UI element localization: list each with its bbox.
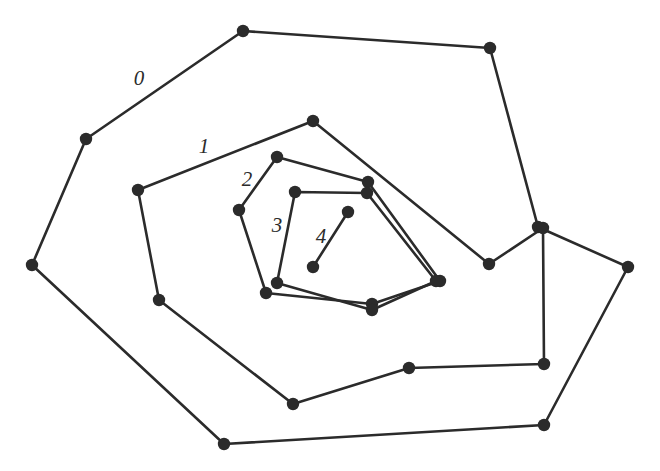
vertex-point	[366, 304, 378, 316]
vertex-point	[403, 362, 415, 374]
vertex-point	[80, 133, 92, 145]
layers-group	[26, 25, 634, 450]
vertex-point	[153, 294, 165, 306]
vertex-point	[430, 275, 442, 287]
vertex-point	[537, 222, 549, 234]
layer-labels-group: 01234	[134, 66, 327, 248]
layer-outline-0	[32, 31, 628, 444]
convex-layers-figure: 01234	[0, 0, 660, 471]
convex-layer-4	[307, 206, 354, 273]
vertex-point	[271, 151, 283, 163]
vertex-point	[132, 184, 144, 196]
layer-label-0: 0	[134, 66, 145, 90]
vertex-point	[361, 187, 373, 199]
layer-label-3: 3	[271, 213, 283, 237]
convex-layer-1	[132, 115, 550, 410]
vertex-point	[538, 419, 550, 431]
vertex-point	[260, 287, 272, 299]
convex-layers-canvas: 01234	[0, 0, 660, 471]
vertex-point	[233, 204, 245, 216]
vertex-point	[289, 186, 301, 198]
layer-label-2: 2	[242, 167, 253, 191]
vertex-point	[307, 261, 319, 273]
vertex-point	[484, 42, 496, 54]
layer-outline-3	[277, 192, 436, 310]
vertex-point	[26, 259, 38, 271]
vertex-point	[287, 398, 299, 410]
vertex-point	[483, 258, 495, 270]
layer-label-4: 4	[316, 224, 327, 248]
vertex-point	[271, 277, 283, 289]
vertex-point	[342, 206, 354, 218]
vertex-point	[622, 261, 634, 273]
vertex-point	[307, 115, 319, 127]
layer-label-1: 1	[199, 134, 210, 158]
convex-layer-2	[233, 151, 446, 310]
vertex-point	[362, 176, 374, 188]
layer-outline-2	[239, 157, 440, 304]
vertex-point	[538, 358, 550, 370]
vertex-point	[218, 438, 230, 450]
vertex-point	[237, 25, 249, 37]
